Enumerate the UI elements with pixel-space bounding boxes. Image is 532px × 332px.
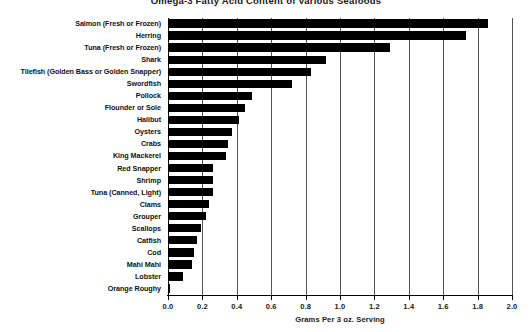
bar-row	[168, 259, 512, 270]
category-label: Oysters	[0, 126, 164, 137]
bar-row	[168, 223, 512, 234]
bar	[168, 284, 170, 292]
bar-row	[168, 114, 512, 125]
plot-area	[168, 18, 512, 295]
bar	[168, 188, 213, 196]
x-tick	[443, 296, 444, 300]
chart-title: Omega-3 Fatty Acid Content of Various Se…	[0, 0, 532, 6]
bar-row	[168, 78, 512, 89]
x-tick	[168, 296, 169, 300]
x-tick	[374, 296, 375, 300]
bar-row	[168, 163, 512, 174]
bar	[168, 200, 209, 208]
bar-row	[168, 211, 512, 222]
x-tick	[202, 296, 203, 300]
bar	[168, 236, 197, 244]
bar-row	[168, 247, 512, 258]
bar	[168, 19, 488, 27]
bar	[168, 68, 311, 76]
bar-row	[168, 235, 512, 246]
category-label: Cod	[0, 247, 164, 258]
bar-row	[168, 283, 512, 294]
bar	[168, 260, 192, 268]
bar	[168, 176, 213, 184]
category-label: Orange Roughy	[0, 283, 164, 294]
bars-layer	[168, 18, 512, 295]
bar	[168, 92, 252, 100]
x-tick-label: 2.0	[492, 302, 532, 311]
category-label: Grouper	[0, 211, 164, 222]
category-label: Herring	[0, 30, 164, 41]
category-label: Swordfish	[0, 78, 164, 89]
bar	[168, 80, 292, 88]
category-label: Salmon (Fresh or Frozen)	[0, 18, 164, 29]
category-label: Pollock	[0, 90, 164, 101]
x-tick	[340, 296, 341, 300]
bar-row	[168, 18, 512, 29]
category-label: Mahi Mahi	[0, 259, 164, 270]
category-label: Crabs	[0, 138, 164, 149]
category-label: Tuna (Fresh or Frozen)	[0, 42, 164, 53]
bar-row	[168, 187, 512, 198]
x-tick	[512, 296, 513, 300]
x-tick	[271, 296, 272, 300]
x-tick	[478, 296, 479, 300]
x-tick	[237, 296, 238, 300]
bar	[168, 212, 206, 220]
category-label: Lobster	[0, 271, 164, 282]
category-label: Tilefish (Golden Bass or Golden Snapper)	[0, 66, 164, 77]
category-label: Red Snapper	[0, 163, 164, 174]
bar	[168, 248, 194, 256]
bar	[168, 104, 245, 112]
bar-row	[168, 150, 512, 161]
bar	[168, 164, 213, 172]
bar-row	[168, 138, 512, 149]
bar-row	[168, 126, 512, 137]
category-axis-labels: Salmon (Fresh or Frozen)HerringTuna (Fre…	[0, 18, 164, 295]
bar-row	[168, 30, 512, 41]
category-label: Halibut	[0, 114, 164, 125]
bar-row	[168, 102, 512, 113]
x-tick	[306, 296, 307, 300]
bar	[168, 272, 183, 280]
bar-row	[168, 271, 512, 282]
category-label: King Mackerel	[0, 150, 164, 161]
bar-row	[168, 175, 512, 186]
bar-row	[168, 54, 512, 65]
gridline-2.0	[512, 18, 513, 295]
bar-row	[168, 90, 512, 101]
category-label: Scallops	[0, 223, 164, 234]
bar-row	[168, 66, 512, 77]
x-tick	[409, 296, 410, 300]
chart-container: Omega-3 Fatty Acid Content of Various Se…	[0, 0, 532, 332]
bar	[168, 43, 390, 51]
x-axis-title: Grams Per 3 oz. Serving	[168, 315, 512, 324]
category-label: Catfish	[0, 235, 164, 246]
bar	[168, 128, 232, 136]
bar	[168, 152, 226, 160]
bar	[168, 116, 239, 124]
bar	[168, 31, 466, 39]
bar-row	[168, 199, 512, 210]
category-label: Shark	[0, 54, 164, 65]
bar	[168, 224, 201, 232]
category-label: Tuna (Canned, Light)	[0, 187, 164, 198]
bar-row	[168, 42, 512, 53]
category-label: Flounder or Sole	[0, 102, 164, 113]
category-label: Shrimp	[0, 175, 164, 186]
category-label: Clams	[0, 199, 164, 210]
bar	[168, 140, 228, 148]
bar	[168, 56, 326, 64]
